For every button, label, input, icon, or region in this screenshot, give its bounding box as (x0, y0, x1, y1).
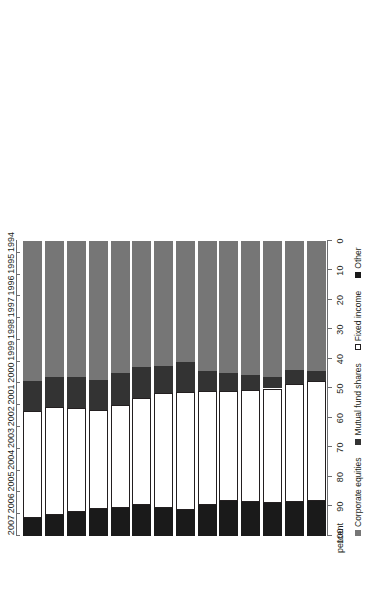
value-tick-label: 100 (335, 521, 345, 551)
category-tick (16, 535, 20, 536)
category-tick (16, 383, 20, 384)
bar-segment (307, 371, 326, 381)
category-tick (16, 317, 20, 318)
bar-segment (198, 371, 217, 391)
value-tick-label: 70 (335, 433, 345, 463)
bar-segment (241, 375, 260, 389)
bar-segment (132, 241, 151, 367)
bar-segment (241, 390, 260, 503)
stacked-bar (45, 241, 64, 536)
bar-segment (285, 384, 304, 502)
legend-label: Other (353, 247, 363, 268)
value-tick-label: 30 (335, 315, 345, 345)
chart-screenshot: percent 1009080706050403020100 199419951… (0, 0, 375, 593)
category-tick (16, 426, 20, 427)
bar-segment (285, 241, 304, 370)
bar-segment (263, 389, 282, 503)
value-tick (327, 240, 332, 241)
bar-segment (23, 381, 42, 411)
stacked-bar (67, 241, 86, 536)
bar-segment (67, 408, 86, 512)
legend-item: Fixed income (352, 291, 363, 351)
bar-segment (154, 508, 173, 536)
legend-item: Corporate equities (352, 458, 363, 536)
category-tick (16, 491, 20, 492)
bar-segment (307, 241, 326, 371)
bar-segment (263, 241, 282, 377)
value-tick-label: 50 (335, 374, 345, 404)
stacked-bar (198, 241, 217, 536)
bar-segment (67, 512, 86, 536)
bar-segment (219, 391, 238, 500)
bar-segment (307, 501, 326, 536)
bar-segment (132, 367, 151, 398)
bar-segment (154, 366, 173, 393)
bar-segment (45, 377, 64, 407)
bar-segment (263, 503, 282, 536)
bar-segment (67, 241, 86, 377)
stacked-bar (111, 241, 130, 536)
bar-segment (89, 509, 108, 536)
legend-swatch-icon (355, 439, 361, 445)
rotated-figure: percent 1009080706050403020100 199419951… (0, 0, 375, 593)
value-tick-label: 60 (335, 403, 345, 433)
bar-segment (176, 241, 195, 362)
value-tick (327, 270, 332, 271)
bar-segment (45, 241, 64, 377)
stacked-bar (23, 241, 42, 536)
bar-segment (241, 241, 260, 375)
plot-area (22, 241, 327, 536)
bar-segment (89, 380, 108, 410)
value-tick-label: 20 (335, 285, 345, 315)
bar-segment (111, 508, 130, 536)
stacked-bar (241, 241, 260, 536)
category-tick (16, 252, 20, 253)
bar-segment (154, 393, 173, 508)
bar-segment (285, 370, 304, 384)
value-tick (327, 417, 332, 418)
legend-label: Corporate equities (353, 458, 363, 527)
bar-segment (154, 241, 173, 366)
bar-segment (198, 505, 217, 536)
legend-item: Other (352, 247, 363, 277)
category-tick (16, 295, 20, 296)
bar-segment (23, 411, 42, 518)
value-tick (327, 388, 332, 389)
bar-segment (45, 407, 64, 515)
value-tick (327, 476, 332, 477)
category-tick (16, 339, 20, 340)
value-tick (327, 506, 332, 507)
bar-segment (89, 241, 108, 380)
stacked-bar (154, 241, 173, 536)
bar-segment (45, 515, 64, 536)
bar-segment (176, 510, 195, 536)
stacked-bar (307, 241, 326, 536)
category-tick (16, 274, 20, 275)
legend-label: Mutual fund shares (353, 363, 363, 435)
legend-swatch-icon (355, 344, 361, 350)
category-tick (16, 513, 20, 514)
stacked-bar (176, 241, 195, 536)
bar-segment (219, 501, 238, 536)
category-label: 2007 (6, 508, 16, 542)
bar-segment (307, 381, 326, 501)
value-tick-label: 90 (335, 492, 345, 522)
bar-segment (241, 502, 260, 536)
value-tick-label: 80 (335, 462, 345, 492)
category-tick (16, 404, 20, 405)
category-tick (16, 448, 20, 449)
chart-legend: Corporate equitiesMutual fund sharesFixe… (352, 234, 363, 536)
bar-segment (23, 241, 42, 381)
bar-segment (111, 373, 130, 405)
stacked-bar (263, 241, 282, 536)
bar-segment (132, 505, 151, 536)
value-tick (327, 535, 332, 536)
bar-segment (198, 241, 217, 371)
bar-segment (132, 398, 151, 504)
value-tick-label: 10 (335, 256, 345, 286)
value-tick (327, 358, 332, 359)
bar-segment (219, 373, 238, 392)
legend-swatch-icon (355, 272, 361, 278)
legend-item: Mutual fund shares (352, 363, 363, 444)
legend-swatch-icon (355, 530, 361, 536)
